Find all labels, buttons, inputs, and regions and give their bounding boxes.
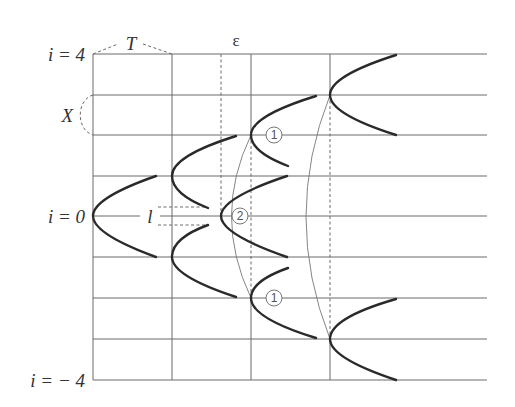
marker-2: 2	[232, 208, 248, 224]
parabola-col1-lower	[172, 225, 236, 297]
label-i-mid: i = 0	[48, 206, 86, 227]
svg-text:2: 2	[237, 209, 244, 223]
label-epsilon: ε	[232, 31, 239, 50]
label-period: T	[126, 33, 138, 54]
diagram-canvas: 1 1 2 i = 4 i = 0 i = − 4 T X ε l	[0, 0, 515, 407]
label-spacing: X	[60, 105, 74, 126]
marker-1-lower: 1	[266, 290, 282, 306]
svg-text:1: 1	[271, 128, 278, 142]
parabola-col2-lower	[251, 268, 316, 338]
label-length: l	[147, 206, 152, 227]
outer-arc	[306, 95, 330, 339]
svg-text:1: 1	[271, 291, 278, 305]
parabola-col1-upper	[172, 136, 236, 208]
label-i-top: i = 4	[48, 44, 86, 65]
marker-1-upper: 1	[266, 127, 282, 143]
parabola-col2-upper	[251, 96, 316, 166]
label-i-bottom: i = − 4	[30, 370, 85, 391]
spacing-bracket	[80, 95, 93, 135]
